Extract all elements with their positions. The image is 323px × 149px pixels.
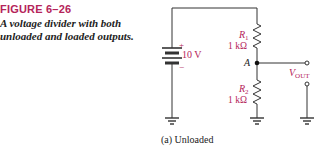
r2-value: 1 kΩ: [228, 95, 247, 105]
r2-resistor-icon: [253, 80, 261, 104]
node-a-label: A: [243, 57, 251, 68]
ground-icon: [300, 118, 314, 124]
battery-value: 10 V: [182, 49, 202, 60]
vout-label: VOUT: [289, 67, 310, 80]
r1-resistor-icon: [253, 24, 261, 48]
r1-value: 1 kΩ: [228, 41, 247, 51]
ground-icon: [165, 118, 179, 124]
subcaption: (a) Unloaded: [161, 134, 213, 146]
circuit-diagram: + − 10 V R1 1 kΩ R2 1 kΩ A VOUT (a) Unlo…: [0, 0, 323, 149]
output-terminal-bottom: [305, 82, 309, 86]
ground-icon: [250, 118, 264, 124]
output-terminal-top: [305, 61, 309, 65]
node-a-dot: [255, 61, 260, 66]
battery-minus: −: [179, 62, 184, 72]
